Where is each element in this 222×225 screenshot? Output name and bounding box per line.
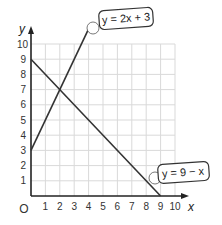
equation-label-2: y = 9 − x <box>149 161 210 184</box>
svg-text:3: 3 <box>20 145 26 156</box>
svg-text:1: 1 <box>20 175 26 186</box>
equation-label-1: y = 2x + 3 <box>87 7 154 34</box>
svg-text:8: 8 <box>143 201 149 212</box>
svg-text:4: 4 <box>20 130 26 141</box>
y-axis-arrow-icon <box>28 26 34 34</box>
x-axis-label: x <box>187 200 195 214</box>
svg-text:6: 6 <box>115 201 121 212</box>
svg-text:4: 4 <box>86 201 92 212</box>
svg-text:3: 3 <box>71 201 77 212</box>
svg-text:2: 2 <box>20 160 26 171</box>
svg-text:7: 7 <box>20 84 26 95</box>
line-y-9-minus-x <box>31 59 161 196</box>
svg-text:8: 8 <box>20 69 26 80</box>
y-tick-labels: 1 2 3 4 5 6 7 8 9 10 <box>17 39 29 187</box>
x-tick-labels: 1 2 3 4 5 6 7 8 9 10 <box>43 201 181 212</box>
svg-text:1: 1 <box>43 201 49 212</box>
svg-text:5: 5 <box>100 201 106 212</box>
origin-label: O <box>19 202 28 216</box>
svg-text:10: 10 <box>17 39 29 50</box>
svg-text:2: 2 <box>57 201 63 212</box>
svg-text:10: 10 <box>169 201 181 212</box>
x-axis-arrow-icon <box>181 193 189 199</box>
y-axis-label: y <box>18 22 26 36</box>
svg-text:6: 6 <box>20 99 26 110</box>
svg-text:9: 9 <box>20 54 26 65</box>
svg-text:9: 9 <box>158 201 164 212</box>
svg-text:7: 7 <box>129 201 135 212</box>
svg-text:5: 5 <box>20 115 26 126</box>
chart: 1 2 3 4 5 6 7 8 9 10 1 2 3 4 5 6 7 8 9 1… <box>0 0 222 225</box>
